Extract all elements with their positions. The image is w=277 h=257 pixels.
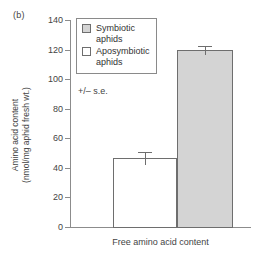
- x-axis-label: Free amino acid content: [70, 237, 251, 247]
- y-axis-label-line2: (nmol/mg aphid fresh wt.): [21, 87, 31, 183]
- y-tick-label-80: 80: [53, 104, 63, 114]
- y-axis-label: Amino acid content (nmol/mg aphid fresh …: [10, 65, 32, 205]
- errorbar-cap-upper-aposymbiotic: [138, 152, 152, 153]
- legend-swatch-symbiotic: [82, 24, 91, 33]
- figure-panel-b: (b) 0 20 40 60 80 100 120 140 Amino acid…: [0, 0, 277, 257]
- bar-aposymbiotic-aphids: [113, 158, 177, 228]
- legend-swatch-aposymbiotic: [82, 47, 91, 56]
- legend: Symbiotic aphids Aposymbiotic aphids: [76, 18, 157, 74]
- panel-label: (b): [13, 10, 25, 20]
- y-tick-label-0: 0: [58, 222, 63, 232]
- y-tick-label-40: 40: [53, 163, 63, 173]
- y-axis-label-line1: Amino acid content: [10, 99, 20, 171]
- y-tick-label-140: 140: [48, 15, 63, 25]
- legend-label-symbiotic: Symbiotic aphids: [96, 23, 135, 45]
- errorbar-cap-upper-symbiotic: [198, 46, 212, 47]
- standard-error-note: +/– s.e.: [78, 86, 108, 96]
- errorbar-stem-aposymbiotic: [145, 152, 146, 165]
- errorbar-stem-symbiotic: [205, 46, 206, 55]
- y-tick-label-120: 120: [48, 45, 63, 55]
- y-tick-label-60: 60: [53, 133, 63, 143]
- legend-label-aposymbiotic: Aposymbiotic aphids: [96, 46, 150, 68]
- y-tick-label-20: 20: [53, 192, 63, 202]
- y-tick-label-100: 100: [48, 74, 63, 84]
- legend-item-aposymbiotic: Aposymbiotic aphids: [82, 46, 150, 68]
- bar-symbiotic-aphids: [177, 50, 233, 228]
- y-axis-line: [70, 20, 71, 228]
- legend-item-symbiotic: Symbiotic aphids: [82, 23, 150, 45]
